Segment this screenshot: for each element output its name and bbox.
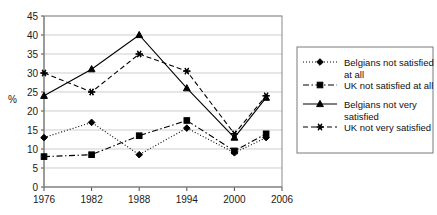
y-tick-label: 10 [27,144,39,155]
y-axis-tick-labels: 051015202530354045 [27,11,39,193]
y-tick-label: 20 [27,106,39,117]
data-point-marker-square [317,82,323,88]
legend-label: at all [344,69,364,80]
plot-area-border [44,16,282,187]
line-chart: 051015202530354045 197619821988199420002… [0,0,437,215]
x-axis-tick-labels: 197619821988199420002006 [33,194,294,205]
data-point-marker-square [41,154,47,160]
data-point-marker-square [263,131,269,137]
x-axis [44,187,282,191]
legend-label: UK not satisfied at all [344,80,433,91]
x-tick-label: 1988 [128,194,151,205]
x-tick-label: 2000 [223,194,246,205]
data-point-marker-square [232,148,238,154]
x-tick-label: 1976 [33,194,56,205]
data-point-marker-square [89,152,95,158]
data-point-marker-asterisk [88,89,95,95]
legend-label: Belgians not satisfied [344,57,434,68]
data-point-marker-diamond [184,125,191,132]
legend-label: satisfied [344,111,379,122]
series-group [40,31,269,159]
data-point-marker-triangle [88,66,95,72]
y-tick-label: 45 [27,11,39,22]
chart-legend: Belgians not satisfiedat allUK not satis… [297,47,434,153]
legend-label: UK not very satisfied [344,122,431,133]
data-point-marker-square [136,133,142,139]
y-tick-label: 35 [27,49,39,60]
y-tick-label: 25 [27,87,39,98]
data-point-marker-diamond [41,134,48,141]
data-point-marker-triangle [41,92,48,98]
y-axis-title: % [8,94,17,105]
series-line [44,54,266,134]
gridlines [44,16,282,168]
y-tick-label: 0 [32,182,38,193]
legend-item-1[interactable]: UK not satisfied at all [344,80,433,91]
legend-item-3[interactable]: UK not very satisfied [344,122,431,133]
series-3 [40,51,269,137]
x-tick-label: 1994 [176,194,199,205]
data-point-marker-diamond [88,119,95,126]
legend-label: Belgians not very [344,99,417,110]
data-point-marker-triangle [136,31,143,37]
y-tick-label: 5 [32,163,38,174]
data-point-marker-diamond [136,151,143,158]
y-tick-label: 40 [27,30,39,41]
x-tick-label: 1982 [80,194,103,205]
y-tick-label: 15 [27,125,39,136]
chart-container: 051015202530354045 197619821988199420002… [0,0,437,215]
data-point-marker-square [184,118,190,124]
y-tick-label: 30 [27,68,39,79]
x-tick-label: 2006 [271,194,294,205]
